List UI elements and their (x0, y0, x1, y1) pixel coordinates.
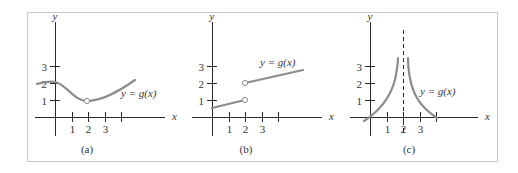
x-tick-label: 1 (385, 123, 391, 135)
open-point-marker (242, 97, 247, 102)
y-tick-label: 3 (357, 61, 363, 73)
x-tick-label: 3 (418, 123, 424, 135)
figure: 123123xyy = g(x)(a)123123xyy = g(x)(b)12… (0, 0, 518, 173)
function-curve (212, 100, 245, 108)
function-curve (245, 70, 303, 83)
y-tick-label: 1 (42, 95, 48, 107)
x-tick-label: 1 (70, 123, 76, 135)
y-tick-label: 2 (357, 78, 363, 90)
curve-label: y = g(x) (259, 56, 296, 69)
x-tick-label: 2 (243, 123, 249, 135)
y-axis-label: y (52, 10, 58, 22)
y-tick-label: 1 (357, 95, 363, 107)
x-tick-label: 2 (86, 123, 92, 135)
open-point-marker (84, 98, 89, 103)
x-tick-label: 1 (227, 123, 233, 135)
y-axis-label: y (367, 10, 373, 22)
y-tick-label: 3 (42, 61, 48, 73)
panels-group: 123123xyy = g(x)(a)123123xyy = g(x)(b)12… (35, 10, 490, 156)
y-tick-label: 3 (199, 61, 205, 73)
panel-caption: (b) (240, 143, 253, 156)
y-tick-label: 2 (199, 78, 205, 90)
panel-caption: (c) (403, 143, 416, 156)
y-axis-label: y (209, 10, 215, 22)
panel-caption: (a) (81, 143, 94, 156)
function-curve (364, 58, 398, 121)
panel-a: 123123xyy = g(x)(a) (35, 10, 177, 156)
curve-label: y = g(x) (120, 87, 157, 100)
y-tick-label: 1 (199, 95, 205, 107)
panel-c: 123123xyy = g(x)(c) (350, 10, 490, 156)
x-axis-label: x (328, 110, 334, 122)
panel-b: 123123xyy = g(x)(b) (192, 10, 334, 156)
curve-label: y = g(x) (419, 85, 456, 98)
x-axis-label: x (171, 110, 177, 122)
x-tick-label: 3 (103, 123, 109, 135)
x-axis-label: x (484, 110, 490, 122)
open-point-marker (242, 80, 247, 85)
x-tick-label: 3 (260, 123, 266, 135)
